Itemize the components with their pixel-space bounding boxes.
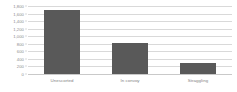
y-axis-tick-label: 400 xyxy=(17,56,24,61)
y-axis-tick-mark xyxy=(25,74,27,75)
y-axis-tick-label: 1,800 xyxy=(13,4,24,9)
y-axis-tick-label: 600 xyxy=(17,49,24,54)
x-axis-category-label: Unescorted xyxy=(51,78,74,84)
y-axis-tick-mark xyxy=(25,66,27,67)
bar-straggling[interactable] xyxy=(180,63,216,74)
y-axis-tick-mark xyxy=(25,21,27,22)
y-axis: 1,8001,6001,4001,2001,0008006004002000 xyxy=(0,0,27,92)
y-axis-tick-mark xyxy=(25,51,27,52)
bar-unescorted[interactable] xyxy=(44,10,80,74)
y-axis-tick-mark xyxy=(25,43,27,44)
y-axis-tick-label: 1,400 xyxy=(13,19,24,24)
y-axis-tick-label: 200 xyxy=(17,64,24,69)
y-axis-tick-mark xyxy=(25,13,27,14)
y-axis-tick-label: 800 xyxy=(17,41,24,46)
y-axis-tick-label: 1,000 xyxy=(13,34,24,39)
bars-layer xyxy=(28,6,232,74)
y-axis-tick-label: 0 xyxy=(22,72,24,77)
y-axis-tick-mark xyxy=(25,28,27,29)
y-axis-tick-label: 1,600 xyxy=(13,11,24,16)
gridline xyxy=(28,74,232,75)
bar-chart: 1,8001,6001,4001,2001,0008006004002000 U… xyxy=(0,0,237,92)
x-axis: UnescortedIn convoyStraggling xyxy=(28,76,232,90)
y-axis-tick-mark xyxy=(25,6,27,7)
x-axis-category-label: Straggling xyxy=(188,78,208,84)
bar-in-convoy[interactable] xyxy=(112,43,148,74)
y-axis-tick-mark xyxy=(25,36,27,37)
x-axis-category-label: In convoy xyxy=(120,78,139,84)
y-axis-tick-label: 1,200 xyxy=(13,26,24,31)
y-axis-tick-mark xyxy=(25,58,27,59)
